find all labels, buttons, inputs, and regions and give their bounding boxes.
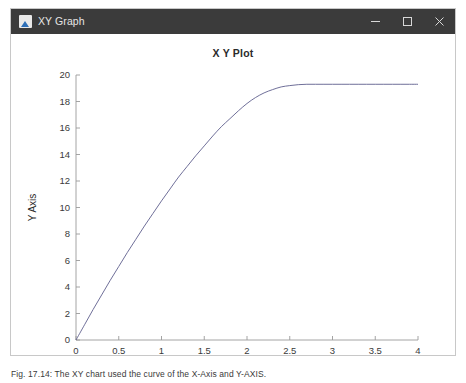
window-controls — [359, 9, 455, 34]
close-button[interactable] — [423, 9, 455, 34]
y-tick-label: 2 — [65, 308, 70, 319]
y-tick-label: 6 — [65, 255, 70, 266]
x-tick-label: 2.5 — [283, 345, 296, 356]
x-tick-label: 3 — [330, 345, 335, 356]
y-tick-labels: 02468101214161820 — [59, 69, 70, 345]
title-bar[interactable]: XY Graph — [11, 9, 455, 34]
y-tick-label: 16 — [59, 122, 70, 133]
y-axis-title: Y Axis — [27, 194, 38, 222]
y-tick-label: 4 — [65, 281, 70, 292]
data-curve — [76, 84, 418, 340]
close-icon — [434, 16, 445, 27]
xy-graph-window: XY Graph X Y Plot 02468101 — [10, 8, 456, 356]
axis-tick-marks — [76, 75, 418, 340]
minimize-icon — [370, 16, 381, 27]
x-tick-label: 3.5 — [369, 345, 382, 356]
y-tick-label: 14 — [59, 149, 70, 160]
x-tick-label: 1 — [159, 345, 164, 356]
y-tick-label: 10 — [59, 202, 70, 213]
x-tick-labels: 00.511.522.533.54 — [73, 345, 420, 356]
x-tick-label: 2 — [244, 345, 249, 356]
xy-plot: 02468101214161820 00.511.522.533.54 X Ax… — [11, 34, 457, 356]
axis-lines — [76, 75, 418, 340]
x-tick-label: 1.5 — [198, 345, 211, 356]
y-tick-label: 8 — [65, 228, 70, 239]
maximize-button[interactable] — [391, 9, 423, 34]
xy-graph-app-icon — [19, 15, 32, 28]
x-tick-label: 0.5 — [112, 345, 125, 356]
figure-canvas: X Y Plot 02468101214161820 00.511.522.53… — [11, 34, 455, 355]
maximize-icon — [402, 16, 413, 27]
y-tick-label: 18 — [59, 96, 70, 107]
minimize-button[interactable] — [359, 9, 391, 34]
y-tick-label: 12 — [59, 175, 70, 186]
y-tick-label: 0 — [65, 334, 70, 345]
x-tick-label: 0 — [73, 345, 78, 356]
figure-caption: Fig. 17.14: The XY chart used the curve … — [11, 369, 451, 379]
y-tick-label: 20 — [59, 69, 70, 80]
window-title: XY Graph — [38, 9, 85, 34]
x-tick-label: 4 — [415, 345, 420, 356]
